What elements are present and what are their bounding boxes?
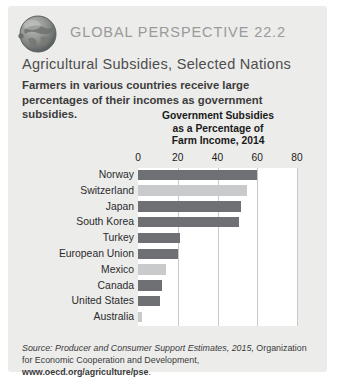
bar-row: Turkey: [8, 231, 327, 247]
bar-label-mexico: Mexico: [101, 264, 134, 275]
bar-row: United States: [8, 294, 327, 310]
x-axis-tick-labels: 020406080: [8, 152, 327, 166]
globe-icon: [16, 12, 60, 56]
bar-row: Mexico: [8, 263, 327, 279]
chart-title-line-3: Farm Income, 2014: [128, 135, 308, 148]
bar-canada: [138, 280, 162, 291]
global-perspective-card: GLOBAL PERSPECTIVE 22.2 Agricultural Sub…: [8, 6, 327, 372]
card-subject-title: Agricultural Subsidies, Selected Nations: [22, 56, 291, 72]
bar-switzerland: [138, 185, 247, 196]
bar-rows: NorwaySwitzerlandJapanSouth KoreaTurkeyE…: [8, 168, 327, 326]
source-url: www.oecd.org/agriculture/pse: [22, 367, 148, 377]
bar-label-japan: Japan: [106, 201, 134, 212]
bar-label-south-korea: South Korea: [76, 216, 134, 227]
bar-norway: [138, 170, 257, 181]
bar-label-united-states: United States: [72, 295, 134, 306]
source-period: .: [148, 367, 150, 377]
bar-chart: Government Subsidies as a Percentage of …: [8, 110, 327, 332]
bar-row: Norway: [8, 168, 327, 184]
bar-label-australia: Australia: [94, 311, 134, 322]
bar-turkey: [138, 233, 180, 244]
bar-row: European Union: [8, 247, 327, 263]
bar-row: Australia: [8, 310, 327, 326]
card-kicker: GLOBAL PERSPECTIVE 22.2: [70, 24, 286, 40]
card-header: GLOBAL PERSPECTIVE 22.2: [8, 10, 327, 54]
x-tick-label-0: 0: [135, 152, 141, 163]
bar-row: Japan: [8, 200, 327, 216]
bar-label-european-union: European Union: [59, 248, 134, 259]
bar-row: Switzerland: [8, 184, 327, 200]
x-tick-label-40: 40: [212, 152, 223, 163]
bar-label-turkey: Turkey: [103, 232, 134, 243]
bar-european-union: [138, 249, 178, 260]
x-tick-label-60: 60: [252, 152, 263, 163]
bar-mexico: [138, 264, 166, 275]
bar-label-canada: Canada: [98, 280, 134, 291]
bar-united-states: [138, 296, 160, 307]
chart-title: Government Subsidies as a Percentage of …: [128, 110, 308, 148]
bar-row: Canada: [8, 279, 327, 295]
bar-row: South Korea: [8, 215, 327, 231]
x-tick-label-80: 80: [291, 152, 302, 163]
x-tick-label-20: 20: [172, 152, 183, 163]
source-citation: Producer and Consumer Support Estimates,…: [53, 343, 254, 353]
bar-label-norway: Norway: [99, 169, 134, 180]
bar-japan: [138, 201, 241, 212]
chart-title-line-1: Government Subsidies: [128, 110, 308, 123]
bar-south-korea: [138, 217, 239, 228]
source-label: Source:: [22, 343, 53, 353]
bar-australia: [138, 312, 142, 323]
chart-title-line-2: as a Percentage of: [128, 123, 308, 136]
bar-label-switzerland: Switzerland: [80, 185, 134, 196]
source-note: Source: Producer and Consumer Support Es…: [22, 342, 318, 379]
